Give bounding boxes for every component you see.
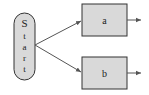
node-b: b bbox=[82, 57, 127, 89]
start-letter-r: r bbox=[23, 53, 26, 63]
edge-start-to-a bbox=[35, 21, 81, 45]
edge-start-to-b bbox=[35, 45, 81, 72]
node-b-label: b bbox=[102, 68, 107, 79]
start-letter-s: S bbox=[21, 17, 27, 29]
node-start: S t a r t bbox=[14, 13, 35, 80]
flowchart-diagram: S t a r t a b bbox=[0, 0, 149, 95]
node-a: a bbox=[82, 4, 127, 36]
node-a-label: a bbox=[102, 15, 107, 26]
start-letter-a: a bbox=[23, 42, 27, 52]
